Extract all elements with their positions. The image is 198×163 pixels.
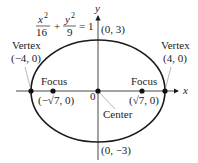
right-vertex-coord: (4, 0) [163,52,187,65]
right-focus-coord: (√7, 0) [129,94,159,107]
eq-x-exponent: 2 [44,11,48,20]
center-leader [98,91,115,109]
left-vertex-title: Vertex [12,39,41,51]
eq-y-numerator: y [64,13,70,25]
x-axis-label: x [182,84,188,96]
ellipse-figure: x 2 16 + y 2 9 = 1 y x 0 Vertex (−4, 0) … [0,0,198,163]
eq-x-denominator: 16 [36,26,48,38]
right-vertex-point [162,88,167,93]
left-focus-coord: (−√7, 0) [38,94,74,107]
ellipse-diagram: x 2 16 + y 2 9 = 1 y x 0 Vertex (−4, 0) … [0,0,198,163]
right-vertex-title: Vertex [161,39,190,51]
eq-plus: + [54,20,60,32]
y-axis-label: y [94,2,100,14]
origin-label: 0 [90,90,96,102]
right-focus-title: Focus [131,75,157,87]
bottom-intercept-coord: (0, −3) [101,144,131,157]
left-vertex-leader [25,67,31,90]
ellipse-equation: x 2 16 + y 2 9 = 1 [36,11,93,38]
top-intercept-coord: (0, 3) [101,23,125,36]
left-vertex-point [28,88,33,93]
left-vertex-coord: (−4, 0) [11,52,41,65]
right-focus-point [139,88,144,93]
right-vertex-leader [165,67,171,90]
eq-x-numerator: x [37,13,43,25]
left-focus-point [50,88,55,93]
eq-y-exponent: 2 [71,11,75,20]
eq-y-denominator: 9 [67,26,73,38]
eq-equals: = 1 [79,20,93,32]
center-point [95,88,100,93]
center-title: Center [103,108,133,120]
left-focus-title: Focus [41,75,67,87]
